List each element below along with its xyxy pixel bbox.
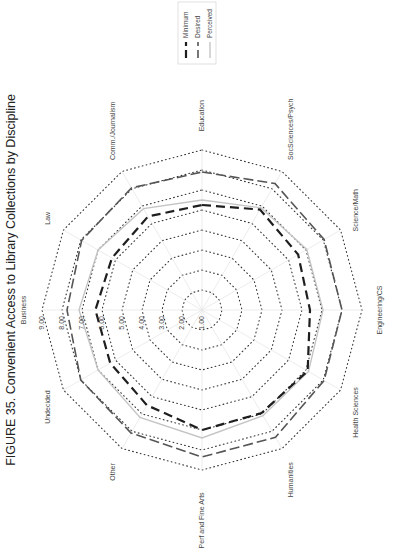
- axis-label: Law: [44, 211, 51, 225]
- axis-label: Science/Math: [352, 189, 359, 232]
- tick-label: 5.00: [118, 316, 125, 330]
- axis-label: Humanities: [287, 462, 294, 498]
- tick-labels: 1.002.003.004.005.006.007.008.009.00: [38, 316, 205, 330]
- axis-label: Perf and Fine Arts: [198, 492, 205, 549]
- axis-label: SocSciences/Psych: [287, 99, 295, 161]
- tick-label: 2.00: [178, 316, 185, 330]
- legend-label: Minimum: [182, 12, 189, 38]
- tick-label: 1.00: [198, 316, 205, 330]
- tick-label: 4.00: [138, 316, 145, 330]
- axis-label: Other: [109, 463, 116, 481]
- axis-label: Comm./Journalism: [109, 102, 116, 161]
- axis-label: Engineering/CS: [376, 285, 384, 334]
- legend-label: Desired: [194, 15, 201, 38]
- legend: MinimumDesiredPerceived: [178, 2, 216, 64]
- tick-label: 8.00: [58, 316, 65, 330]
- axis-label: Business: [20, 295, 27, 324]
- axis-label: Education: [198, 100, 205, 131]
- legend-label: Perceived: [206, 9, 213, 38]
- radar-chart: EducationSocSciences/PsychScience/MathEn…: [0, 0, 396, 560]
- axis-spoke: [63, 230, 202, 310]
- axis-spoke: [202, 310, 282, 449]
- tick-label: 9.00: [38, 316, 45, 330]
- tick-label: 3.00: [158, 316, 165, 330]
- tick-label: 7.00: [78, 316, 85, 330]
- axis-label: Undecided: [44, 390, 51, 424]
- axis-spoke: [122, 310, 202, 449]
- axis-label: Health Sciences: [352, 387, 359, 438]
- tick-label: 6.00: [98, 316, 105, 330]
- axis-spokes: [42, 150, 362, 470]
